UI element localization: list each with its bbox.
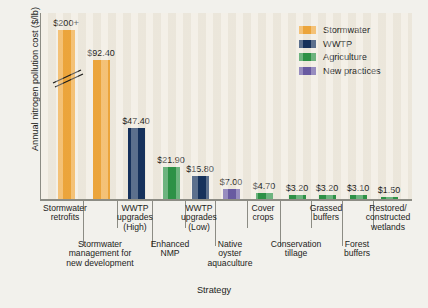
x-axis-line [40, 199, 412, 201]
legend-swatch-icon [299, 26, 316, 34]
legend-item-label: New practices [323, 66, 381, 76]
category-label-line: wetlands [345, 223, 428, 232]
legend-item-agriculture: Agriculture [299, 52, 381, 62]
bar-value-label: $47.40 [109, 116, 163, 126]
chart-plot-area: $200+$92.40$47.40$21.90$15.80$7.00$4.70$… [40, 13, 412, 200]
category-label-line: aquaculture [187, 259, 273, 268]
bar [58, 30, 75, 200]
legend-item-label: Stormwater [323, 25, 370, 35]
legend-item-label: WWTP [323, 39, 352, 49]
legend-swatch-icon [299, 40, 316, 48]
category-label: Forestbuffers [314, 240, 400, 259]
legend-item-wwtp: WWTP [299, 39, 381, 49]
bar-value-label: $15.80 [173, 164, 227, 174]
category-label: Restored/constructedwetlands [345, 204, 428, 232]
bar [93, 60, 110, 200]
legend-swatch-icon [299, 53, 316, 61]
legend: StormwaterWWTPAgricultureNew practices [299, 25, 381, 79]
legend-item-label: Agriculture [323, 52, 367, 62]
bar-value-label: $92.40 [74, 48, 128, 58]
bar-value-label: $1.50 [362, 185, 416, 195]
category-label-line: buffers [314, 249, 400, 258]
page-background: Annual nitrogen pollution cost ($/lb) $2… [0, 0, 428, 308]
bar [128, 128, 145, 200]
legend-item-stormwater: Stormwater [299, 25, 381, 35]
legend-item-new-practices: New practices [299, 66, 381, 76]
bar-value-label: $200+ [39, 18, 93, 28]
x-axis-title: Strategy [0, 285, 428, 295]
category-label-line: (Low) [156, 223, 242, 232]
legend-swatch-icon [299, 67, 316, 75]
category-label-line: new development [57, 259, 143, 268]
